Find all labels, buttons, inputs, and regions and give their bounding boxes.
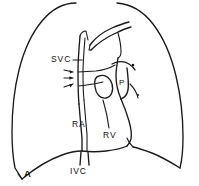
- aortic-arch-lower: [91, 27, 131, 50]
- cardiac-inferior-border: [82, 146, 127, 152]
- chest-diagram-drawing: [0, 0, 199, 186]
- left-hemidiaphragm: [133, 147, 180, 168]
- pulmonary-artery-outline: [112, 62, 135, 70]
- label-right-atrium: RA: [72, 120, 86, 129]
- aortic-knob: [89, 45, 91, 50]
- superior-vena-cava-border-outer: [78, 36, 80, 104]
- label-ivc: IVC: [70, 167, 87, 176]
- label-right-ventricle: RV: [103, 131, 116, 140]
- descending-aorta-border: [118, 33, 121, 58]
- pulmonary-artery-branch: [130, 84, 138, 98]
- label-svc: SVC: [51, 55, 71, 64]
- right-lung-outline: [12, 3, 76, 179]
- label-pulmonary-artery: P: [119, 79, 124, 87]
- right-ventricle-border: [121, 99, 131, 146]
- inferior-vena-cava-left: [80, 152, 81, 165]
- hilar-point-dot: [132, 64, 135, 67]
- annotation-arrows: [64, 70, 73, 88]
- inferior-vena-cava-right: [88, 152, 89, 165]
- panel-label: A: [24, 169, 31, 179]
- aortic-root-oval: [95, 75, 113, 98]
- hilar-secondary-dot: [137, 94, 139, 96]
- svc-top: [80, 31, 88, 40]
- superior-vena-cava-border-inner: [83, 38, 85, 100]
- aortic-arch-upper: [90, 22, 129, 45]
- chest-diagram-figure: SVC P RA RV IVC A: [0, 0, 199, 186]
- cardiac-septum-line: [103, 100, 109, 128]
